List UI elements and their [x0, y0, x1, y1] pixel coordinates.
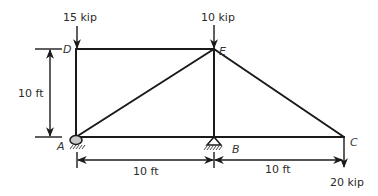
- dim-label-AB: 10 ft: [133, 165, 159, 178]
- node-label-D: D: [63, 43, 71, 56]
- dim-label-height: 10 ft: [18, 87, 44, 100]
- node-label-A: A: [56, 140, 65, 153]
- member-EC: [214, 49, 344, 137]
- support-B: [204, 137, 222, 150]
- node-label-C: C: [350, 136, 358, 149]
- load-label-D: 15 kip: [63, 11, 97, 24]
- node-label-E: E: [219, 45, 226, 58]
- load-label-E: 10 kip: [201, 11, 235, 24]
- dim-label-BC: 10 ft: [265, 163, 291, 176]
- load-label-C: 20 kip: [330, 176, 364, 189]
- truss-diagram: D E A B C 15 kip 10 kip 20 kip 10 ft 10 …: [0, 0, 378, 196]
- node-label-B: B: [232, 143, 240, 156]
- member-AE: [76, 49, 214, 137]
